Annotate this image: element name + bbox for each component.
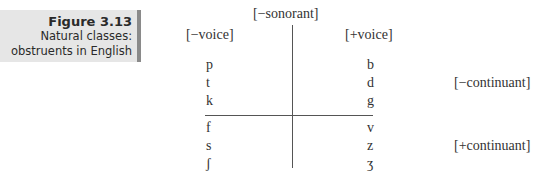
sonorant-label: [−sonorant] <box>253 6 318 22</box>
caption-line-1: Natural classes: <box>0 29 132 44</box>
segment-ezh: ʒ <box>367 156 373 172</box>
segment-g: g <box>367 93 374 109</box>
minus-continuant-label: [−continuant] <box>454 75 530 91</box>
segment-esh: ʃ <box>206 156 211 172</box>
segment-b: b <box>367 57 374 73</box>
continuant-divider-line <box>205 115 373 116</box>
plus-voice-label: [+voice] <box>345 27 393 43</box>
plus-continuant-label: [+continuant] <box>454 138 530 154</box>
figure-caption: Figure 3.13 Natural classes: obstruents … <box>0 10 141 62</box>
segment-d: d <box>367 75 374 91</box>
segment-k: k <box>206 93 213 109</box>
figure-number: Figure 3.13 <box>0 14 132 29</box>
caption-line-2: obstruents in English <box>0 44 132 59</box>
segment-f: f <box>206 120 211 136</box>
segment-t: t <box>206 75 210 91</box>
segment-p: p <box>206 57 213 73</box>
segment-z: z <box>367 138 373 154</box>
voice-divider-line <box>292 25 293 168</box>
segment-v: v <box>367 120 374 136</box>
segment-s: s <box>206 138 211 154</box>
minus-voice-label: [−voice] <box>186 27 234 43</box>
